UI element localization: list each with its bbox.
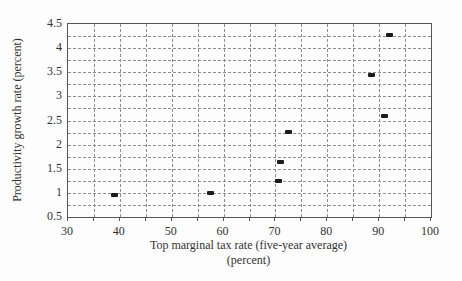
x-axis-tick <box>274 217 275 221</box>
y-axis-title: Productivity growth rate (percent) <box>10 18 24 222</box>
x-tick-label: 80 <box>309 224 343 239</box>
data-point <box>277 160 284 164</box>
horizontal-gridline <box>68 72 431 73</box>
data-point <box>368 73 375 77</box>
data-point <box>275 179 282 183</box>
data-point <box>207 191 214 195</box>
x-axis-tick <box>430 217 431 221</box>
x-axis-tick <box>404 217 405 221</box>
horizontal-gridline <box>68 193 431 194</box>
x-axis-tick <box>93 217 94 221</box>
horizontal-gridline <box>68 169 431 170</box>
x-tick-label: 70 <box>257 224 291 239</box>
horizontal-gridline <box>68 96 431 97</box>
x-tick-label: 30 <box>50 224 84 239</box>
y-tick-label: 1 <box>26 186 62 198</box>
horizontal-gridline <box>68 121 431 122</box>
x-axis-tick <box>378 217 379 221</box>
x-axis-tick <box>326 217 327 221</box>
y-tick-label: 2 <box>26 138 62 150</box>
data-point <box>381 114 388 118</box>
y-tick-label: 3.5 <box>26 65 62 77</box>
horizontal-gridline <box>68 84 431 85</box>
y-tick-label: 4.5 <box>26 17 62 29</box>
y-tick-label: 2.5 <box>26 114 62 126</box>
x-tick-label: 50 <box>154 224 188 239</box>
x-tick-label: 90 <box>361 224 395 239</box>
data-point <box>111 193 118 197</box>
x-tick-label: 100 <box>413 224 447 239</box>
x-axis-tick <box>249 217 250 221</box>
x-axis-tick <box>197 217 198 221</box>
x-tick-label: 40 <box>102 224 136 239</box>
x-axis-title-line2: (percent) <box>67 253 430 268</box>
x-axis-title: Top marginal tax rate (five-year average… <box>67 238 430 253</box>
x-axis-tick <box>352 217 353 221</box>
data-point <box>285 130 292 134</box>
horizontal-gridline <box>68 157 431 158</box>
scatter-chart-figure: Productivity growth rate (percent) 30405… <box>0 0 462 281</box>
horizontal-gridline <box>68 133 431 134</box>
plot-area <box>67 23 432 218</box>
horizontal-gridline <box>68 145 431 146</box>
y-tick-label: 1.5 <box>26 162 62 174</box>
x-axis-tick <box>145 217 146 221</box>
x-axis-tick <box>171 217 172 221</box>
x-axis-tick <box>67 217 68 221</box>
x-axis-tick <box>119 217 120 221</box>
horizontal-gridline <box>68 181 431 182</box>
y-tick-label: 3 <box>26 89 62 101</box>
y-tick-label: 4 <box>26 41 62 53</box>
horizontal-gridline <box>68 205 431 206</box>
data-point <box>386 33 393 37</box>
horizontal-gridline <box>68 108 431 109</box>
horizontal-gridline <box>68 48 431 49</box>
x-tick-label: 60 <box>206 224 240 239</box>
x-axis-tick <box>223 217 224 221</box>
horizontal-gridline <box>68 60 431 61</box>
y-tick-label: 0.5 <box>26 210 62 222</box>
x-axis-tick <box>300 217 301 221</box>
horizontal-gridline <box>68 36 431 37</box>
